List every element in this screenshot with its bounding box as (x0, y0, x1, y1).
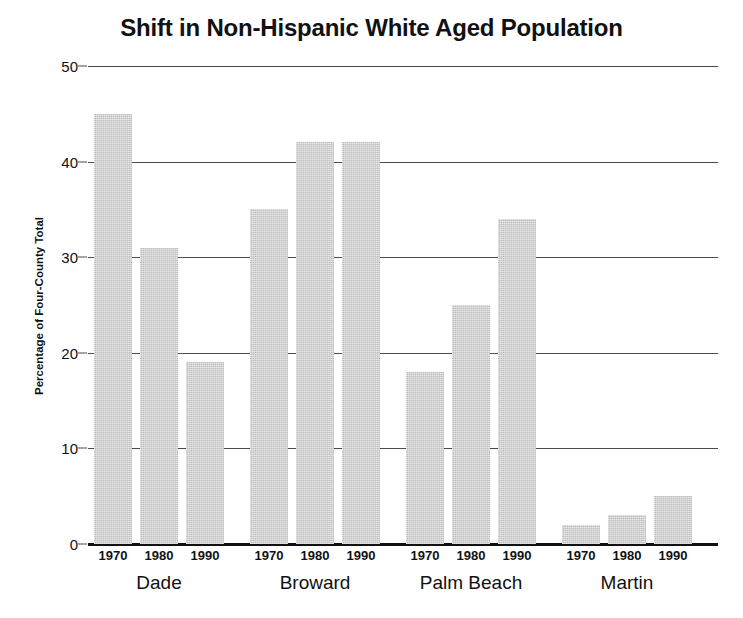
chart-page: Shift in Non-Hispanic White Aged Populat… (0, 0, 743, 618)
plot-area: 01020304050 (88, 66, 718, 544)
gridline-40 (88, 162, 718, 163)
bar-palm-beach-1970 (406, 372, 444, 544)
x-tick-label-broward-1970: 1970 (250, 548, 288, 563)
x-tick-label-martin-1990: 1990 (654, 548, 692, 563)
gridline-10 (88, 448, 718, 449)
y-tick-mark-10 (78, 448, 87, 449)
bar-dade-1980 (140, 248, 178, 544)
y-tick-label-40: 40 (61, 153, 78, 170)
x-tick-label-dade-1990: 1990 (186, 548, 224, 563)
group-label-palm-beach: Palm Beach (406, 572, 536, 594)
chart-title: Shift in Non-Hispanic White Aged Populat… (0, 14, 743, 42)
x-tick-label-palm-beach-1980: 1980 (452, 548, 490, 563)
x-tick-label-broward-1980: 1980 (296, 548, 334, 563)
bar-dade-1990 (186, 362, 224, 544)
bar-palm-beach-1990 (498, 219, 536, 544)
bar-martin-1980 (608, 515, 646, 544)
y-tick-mark-20 (78, 352, 87, 353)
y-tick-mark-0 (78, 544, 87, 545)
bar-broward-1970 (250, 209, 288, 544)
group-label-dade: Dade (94, 572, 224, 594)
x-tick-label-dade-1970: 1970 (94, 548, 132, 563)
bar-broward-1980 (296, 142, 334, 544)
y-tick-mark-30 (78, 257, 87, 258)
x-tick-label-palm-beach-1970: 1970 (406, 548, 444, 563)
y-tick-mark-50 (78, 66, 87, 67)
bar-dade-1970 (94, 114, 132, 544)
x-tick-label-palm-beach-1990: 1990 (498, 548, 536, 563)
group-label-broward: Broward (250, 572, 380, 594)
y-axis-title: Percentage of Four-County Total (33, 176, 45, 436)
x-tick-label-martin-1980: 1980 (608, 548, 646, 563)
x-tick-label-martin-1970: 1970 (562, 548, 600, 563)
y-tick-label-30: 30 (61, 249, 78, 266)
bar-broward-1990 (342, 142, 380, 544)
gridline-30 (88, 257, 718, 258)
x-tick-label-broward-1990: 1990 (342, 548, 380, 563)
y-tick-label-10: 10 (61, 440, 78, 457)
x-tick-label-dade-1980: 1980 (140, 548, 178, 563)
gridline-20 (88, 353, 718, 354)
y-tick-mark-40 (78, 161, 87, 162)
group-label-martin: Martin (562, 572, 692, 594)
y-tick-label-20: 20 (61, 344, 78, 361)
y-tick-label-50: 50 (61, 58, 78, 75)
bar-martin-1970 (562, 525, 600, 544)
gridline-50 (88, 66, 718, 67)
bar-martin-1990 (654, 496, 692, 544)
y-tick-label-0: 0 (70, 536, 78, 553)
bar-palm-beach-1980 (452, 305, 490, 544)
